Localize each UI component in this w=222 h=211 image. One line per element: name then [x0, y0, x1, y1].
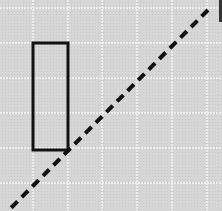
diagonal-dashed-line [8, 10, 208, 211]
tall-rectangle [33, 43, 68, 150]
diagram-svg [0, 0, 222, 211]
edge-bar [219, 0, 222, 22]
diagram-canvas [0, 0, 222, 211]
